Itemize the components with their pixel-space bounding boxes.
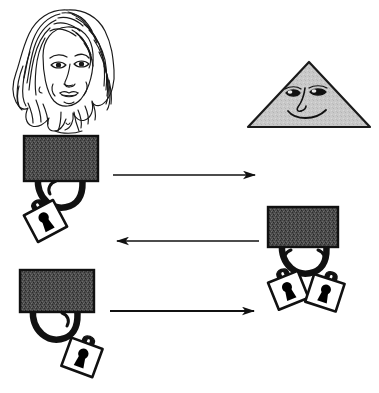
- bag-middle-right-region: [262, 207, 372, 312]
- triangle-region: [248, 62, 370, 128]
- woman-head-region: [12, 6, 124, 134]
- diagram-canvas: [0, 0, 379, 393]
- bag-bottom-left-region: [16, 270, 111, 380]
- bag-top-left-region: [20, 136, 102, 246]
